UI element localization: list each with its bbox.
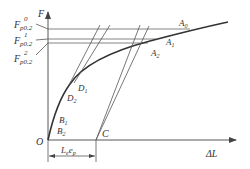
origin-label: O bbox=[36, 136, 43, 147]
svg-text:Fp0.2: Fp0.2 bbox=[13, 19, 33, 32]
point-d1-label: D1 bbox=[77, 83, 88, 94]
svg-text:1: 1 bbox=[24, 31, 28, 39]
x-axis-label: ΔL bbox=[205, 148, 218, 159]
point-b1-label: B1 bbox=[59, 115, 68, 126]
svg-text:Fp0.2: Fp0.2 bbox=[13, 35, 33, 48]
fp02-0-label: Fp0.2 0 bbox=[13, 15, 33, 32]
fp02-0-leader bbox=[36, 24, 48, 29]
svg-text:2: 2 bbox=[24, 49, 28, 57]
fp02-1-label: Fp0.2 1 bbox=[13, 31, 33, 48]
point-a1-label: A1 bbox=[165, 37, 175, 48]
point-a2-label: A2 bbox=[150, 48, 160, 59]
elastic-line-1 bbox=[69, 25, 100, 85]
fp02-1-leader bbox=[36, 39, 48, 40]
offset-line-1 bbox=[96, 25, 140, 140]
fp02-2-leader bbox=[36, 43, 48, 55]
svg-text:0: 0 bbox=[24, 15, 28, 23]
point-d2-label: D2 bbox=[66, 93, 77, 104]
point-a0-label: A0 bbox=[178, 18, 188, 29]
force-elongation-diagram: F ΔL O Fp0.2 0 Fp0.2 1 Fp0.2 2 A0 A1 A2 … bbox=[0, 0, 250, 169]
svg-text:Fp0.2: Fp0.2 bbox=[13, 53, 33, 66]
point-c-label: C bbox=[102, 128, 109, 139]
point-b2-label: B2 bbox=[57, 126, 66, 137]
y-axis-label: F bbox=[37, 8, 45, 19]
dimension-label: Leep bbox=[60, 145, 76, 156]
elastic-line-2 bbox=[74, 25, 110, 83]
fp02-2-label: Fp0.2 2 bbox=[13, 49, 33, 66]
